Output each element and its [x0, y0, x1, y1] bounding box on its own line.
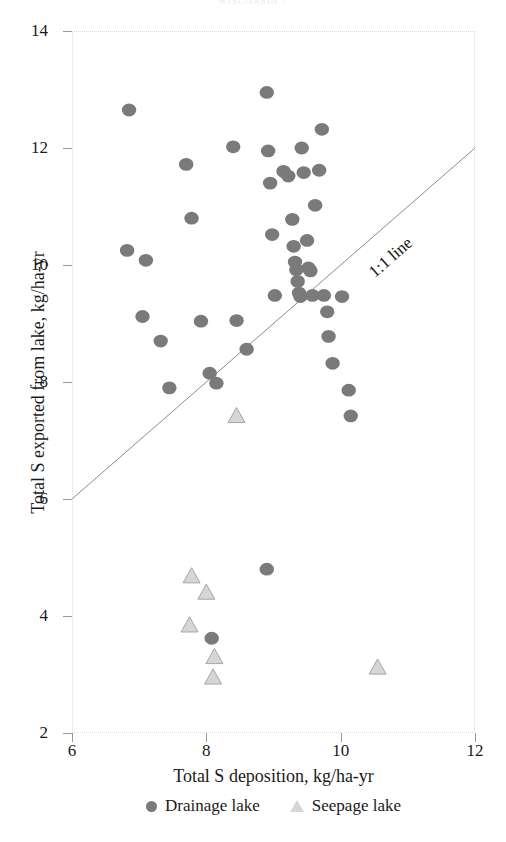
- x-axis-label: Total S deposition, kg/ha-yr: [72, 766, 475, 787]
- legend: Drainage lake Seepage lake: [72, 796, 475, 816]
- data-point-drainage-lake[interactable]: [153, 335, 167, 348]
- data-point-drainage-lake[interactable]: [239, 343, 253, 356]
- data-point-drainage-lake[interactable]: [344, 410, 358, 423]
- plot-area: 1:1 line: [72, 31, 475, 733]
- y-tick-mark: [63, 265, 72, 266]
- one-to-one-reference-line: [72, 148, 475, 499]
- x-tick-label: 8: [183, 742, 229, 759]
- data-point-drainage-lake[interactable]: [205, 632, 219, 645]
- x-tick-label: 10: [318, 742, 364, 759]
- data-point-drainage-lake[interactable]: [135, 310, 149, 323]
- data-point-drainage-lake[interactable]: [162, 381, 176, 394]
- data-point-drainage-lake[interactable]: [184, 212, 198, 225]
- triangle-marker-icon: [290, 800, 304, 812]
- legend-item-drainage-lake[interactable]: Drainage lake: [146, 796, 260, 816]
- y-axis-label: Total S exported from lake, kg/ha-yr: [28, 183, 49, 583]
- data-point-drainage-lake[interactable]: [229, 314, 243, 327]
- x-tick-label: 12: [452, 742, 498, 759]
- data-point-drainage-lake[interactable]: [312, 164, 326, 177]
- data-point-drainage-lake[interactable]: [209, 377, 223, 390]
- data-point-drainage-lake[interactable]: [295, 142, 309, 155]
- y-tick-label: 4: [8, 607, 48, 624]
- scatter-canvas: [72, 31, 475, 733]
- x-tick-label: 6: [49, 742, 95, 759]
- y-tick-mark: [63, 616, 72, 617]
- data-point-drainage-lake[interactable]: [261, 145, 275, 158]
- data-point-seepage-lake[interactable]: [183, 568, 200, 583]
- y-tick-mark: [63, 499, 72, 500]
- data-point-drainage-lake[interactable]: [315, 123, 329, 136]
- circle-marker-icon: [146, 801, 157, 812]
- data-point-drainage-lake[interactable]: [263, 177, 277, 190]
- y-tick-mark: [63, 382, 72, 383]
- data-point-drainage-lake[interactable]: [308, 199, 322, 212]
- y-tick-mark: [63, 31, 72, 32]
- data-point-drainage-lake[interactable]: [317, 289, 331, 302]
- data-point-drainage-lake[interactable]: [289, 263, 303, 276]
- data-point-drainage-lake[interactable]: [321, 330, 335, 343]
- data-point-drainage-lake[interactable]: [179, 158, 193, 171]
- data-point-seepage-lake[interactable]: [198, 584, 215, 599]
- y-tick-label: 2: [8, 724, 48, 741]
- data-point-drainage-lake[interactable]: [303, 264, 317, 277]
- data-point-drainage-lake[interactable]: [320, 305, 334, 318]
- data-point-drainage-lake[interactable]: [285, 213, 299, 226]
- data-point-drainage-lake[interactable]: [335, 290, 349, 303]
- y-tick-mark: [63, 733, 72, 734]
- data-point-drainage-lake[interactable]: [260, 563, 274, 576]
- data-point-drainage-lake[interactable]: [260, 86, 274, 99]
- data-point-drainage-lake[interactable]: [194, 315, 208, 328]
- data-point-drainage-lake[interactable]: [265, 228, 279, 241]
- y-tick-mark: [63, 148, 72, 149]
- data-point-drainage-lake[interactable]: [286, 240, 300, 253]
- data-point-drainage-lake[interactable]: [325, 357, 339, 370]
- data-point-seepage-lake[interactable]: [205, 669, 222, 684]
- data-point-seepage-lake[interactable]: [181, 617, 198, 632]
- data-point-drainage-lake[interactable]: [281, 170, 295, 183]
- y-tick-label: 14: [8, 22, 48, 39]
- data-point-seepage-lake[interactable]: [369, 659, 386, 674]
- data-point-seepage-lake[interactable]: [206, 648, 223, 663]
- data-point-drainage-lake[interactable]: [342, 384, 356, 397]
- data-point-drainage-lake[interactable]: [290, 275, 304, 288]
- running-head: WISCONSIN 7: [0, 0, 506, 5]
- figure-scatter-plot: WISCONSIN 7 2468101214 681012 1:1 line T…: [0, 0, 506, 842]
- data-point-drainage-lake[interactable]: [268, 289, 282, 302]
- legend-item-seepage-lake[interactable]: Seepage lake: [290, 796, 401, 816]
- data-point-drainage-lake[interactable]: [139, 254, 153, 267]
- data-point-drainage-lake[interactable]: [120, 244, 134, 257]
- y-tick-label: 12: [8, 139, 48, 156]
- data-point-drainage-lake[interactable]: [226, 140, 240, 153]
- data-point-drainage-lake[interactable]: [300, 234, 314, 247]
- data-point-drainage-lake[interactable]: [297, 166, 311, 179]
- legend-label-drainage-lake: Drainage lake: [165, 796, 260, 816]
- data-point-drainage-lake[interactable]: [122, 104, 136, 117]
- legend-label-seepage-lake: Seepage lake: [312, 796, 401, 816]
- data-point-seepage-lake[interactable]: [228, 407, 245, 422]
